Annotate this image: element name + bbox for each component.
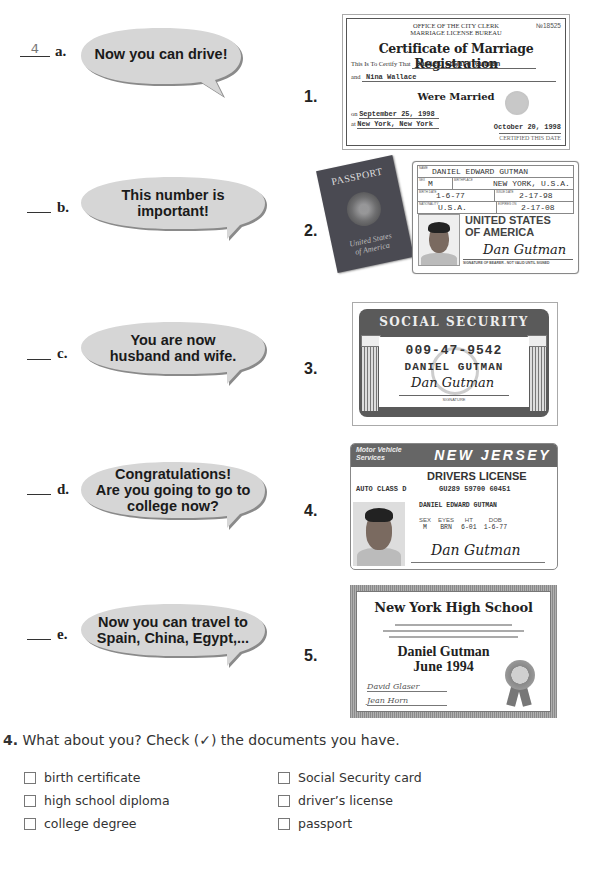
diploma-name: Daniel Gutman: [357, 644, 530, 659]
dl-photo: [353, 502, 405, 566]
diploma-signer1: David Glaser: [367, 682, 447, 692]
checkbox-drivers-license[interactable]: driver’s license: [278, 793, 393, 808]
bubble-text-line: husband and wife.: [110, 348, 236, 364]
signature-line: [411, 562, 545, 563]
ss-name: DANIEL GUTMAN: [379, 361, 529, 373]
id-photo: [418, 214, 460, 266]
answer-blank-b[interactable]: [27, 198, 51, 213]
checkbox-label: Social Security card: [298, 770, 422, 785]
bubble-text-line: You are now: [110, 332, 236, 348]
checkbox-birth-certificate[interactable]: birth certificate: [24, 770, 140, 785]
cert-on-label: on: [351, 110, 358, 117]
bubble-text-line: Now you can travel to: [97, 614, 249, 630]
checkbox-label: birth certificate: [44, 770, 140, 785]
doc-number-1: 1.: [304, 88, 317, 106]
seal-icon: [505, 91, 529, 115]
award-seal-icon: [505, 660, 535, 690]
cert-and-label: and: [351, 73, 360, 80]
divider: [389, 636, 518, 638]
row-letter-e: e.: [57, 626, 67, 643]
signature-line: [463, 259, 573, 260]
checkbox-label: high school diploma: [44, 793, 170, 808]
checkbox-passport[interactable]: passport: [278, 816, 352, 831]
checkbox-icon[interactable]: [24, 818, 36, 830]
checkbox-icon[interactable]: [278, 818, 290, 830]
drivers-license: Motor Vehicle Services NEW JERSEY DRIVER…: [350, 443, 558, 570]
bubble-text-line: college now?: [96, 498, 251, 514]
id-signature: Dan Gutman: [483, 242, 566, 257]
dl-agency-line1: Motor Vehicle: [356, 446, 402, 454]
checkbox-label: passport: [298, 816, 352, 831]
cert-date: September 25, 1998: [359, 110, 439, 119]
id-birth-date-label: BIRTH DATE: [419, 190, 437, 194]
ss-signature: Dan Gutman: [411, 375, 494, 390]
id-expires-label: EXPIRES ON: [498, 202, 516, 206]
signature-line: [399, 395, 509, 396]
divider: [395, 624, 512, 626]
eagle-seal-icon: [344, 189, 384, 229]
dl-license-number: GU289 59700 60451: [439, 485, 510, 493]
checkbox-social-security-card[interactable]: Social Security card: [278, 770, 422, 785]
id-expires: 2-17-08: [521, 203, 555, 212]
exercise-4-prompt: 4. What about you? Check (✓) the documen…: [3, 732, 400, 748]
id-birthplace-label: BIRTHPLACE: [454, 178, 473, 182]
dl-field-eyes: EYES BRN: [438, 516, 454, 532]
checkbox-icon[interactable]: [278, 772, 290, 784]
id-issue-date-label: ISSUE DATE: [496, 190, 514, 194]
cert-office-line2: MARRIAGE LICENSE BUREAU: [347, 29, 565, 36]
dl-state: NEW JERSEY: [434, 447, 551, 463]
cert-number: №18525: [536, 22, 561, 29]
diploma-signer2: Jean Horn: [367, 696, 447, 706]
checkbox-label: college degree: [44, 816, 137, 831]
speech-bubble-e: Now you can travel to Spain, China, Egyp…: [75, 602, 275, 674]
exercise-number: 4.: [3, 732, 18, 748]
dl-agency-line2: Services: [356, 454, 402, 462]
diploma-school: New York High School: [357, 600, 550, 615]
checkbox-icon[interactable]: [24, 795, 36, 807]
id-sex: M: [428, 179, 433, 188]
id-nationality-label: NATIONALITY: [419, 202, 438, 206]
id-sex-label: SEX: [419, 178, 425, 182]
speech-bubble-a: Now you can drive!: [75, 26, 250, 98]
bubble-text-line: Spain, China, Egypt,...: [97, 630, 249, 646]
speech-bubble-d: Congratulations! Are you going to go to …: [75, 460, 275, 536]
row-letter-d: d.: [57, 481, 69, 498]
cert-office-line1: OFFICE OF THE CITY CLERK: [347, 22, 565, 29]
ss-title: SOCIAL SECURITY: [359, 315, 549, 329]
cert-certified-date: October 20, 1998: [494, 123, 561, 131]
column-left-icon: [362, 337, 378, 411]
marriage-certificate: OFFICE OF THE CITY CLERK MARRIAGE LICENS…: [342, 14, 570, 150]
speech-bubble-b: This number is important!: [75, 175, 275, 247]
column-capital-icon: [361, 335, 381, 347]
cert-person2: Nina Wallace: [362, 73, 556, 82]
doc-number-3: 3.: [304, 360, 317, 378]
speech-bubble-c: You are now husband and wife.: [75, 320, 275, 392]
row-letter-b: b.: [57, 199, 69, 216]
exercise-prompt-text: What about you? Check (✓) the documents …: [23, 732, 400, 748]
checkbox-high-school-diploma[interactable]: high school diploma: [24, 793, 170, 808]
id-issue-date: 2-17-98: [519, 191, 553, 200]
id-country-line1: UNITED STATES: [465, 214, 551, 226]
cert-place: New York, New York: [357, 120, 439, 129]
checkbox-icon[interactable]: [24, 772, 36, 784]
cert-certify-label: This Is To Certify That: [351, 60, 411, 67]
checkbox-college-degree[interactable]: college degree: [24, 816, 137, 831]
answer-blank-e[interactable]: [27, 625, 51, 640]
passport-id-page: NAME DANIEL EDWARD GUTMAN SEX M BIRTHPLA…: [412, 161, 579, 274]
cert-person1: Daniel Edward Gutman: [412, 60, 536, 69]
row-letter-c: c.: [57, 345, 67, 362]
cert-at-label: at: [351, 120, 356, 127]
dl-signature: Dan Gutman: [431, 542, 521, 558]
bubble-text-line: This number is: [121, 187, 224, 203]
bubble-text-line: Now you can drive!: [95, 46, 228, 62]
dl-field-height: HT 6-01: [461, 516, 477, 532]
social-security-card: SOCIAL SECURITY 009-47-9542 DANIEL GUTMA…: [352, 302, 558, 426]
checkbox-icon[interactable]: [278, 795, 290, 807]
column-right-icon: [530, 337, 546, 411]
answer-blank-a[interactable]: 4: [20, 42, 50, 57]
divider: [383, 630, 524, 632]
answer-blank-c[interactable]: [27, 345, 51, 360]
bubble-text-line: important!: [121, 203, 224, 219]
id-name-label: NAME: [419, 166, 428, 170]
answer-blank-d[interactable]: [27, 480, 51, 495]
